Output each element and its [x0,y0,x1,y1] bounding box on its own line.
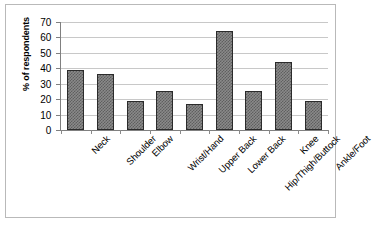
chart-frame: % of respondents 706050403020100 NeckSho… [5,4,336,218]
bar-lower-back [216,31,233,130]
y-tick-label-60: 60 [40,32,51,43]
bar-upper-back [186,104,203,130]
y-axis-ticks: 706050403020100 [6,22,61,130]
bar-shoulder [97,74,114,130]
x-axis-labels: NeckShoulderElbowWrist/HandUpper BackLow… [61,133,329,223]
bar-elbow [127,101,144,130]
bar-neck [67,70,84,130]
bar-hip-thigh-buttock [245,91,262,130]
y-tick-label-40: 40 [40,63,51,74]
plot-area [61,22,328,130]
bar-series [61,22,328,130]
bar-ankle-foot [305,101,322,130]
bar-knee [275,62,292,130]
y-tick-label-50: 50 [40,47,51,58]
y-tick-label-10: 10 [40,109,51,120]
y-tick-label-30: 30 [40,78,51,89]
x-label-neck: Neck [89,133,112,156]
y-tick-label-0: 0 [46,125,51,136]
y-tick-label-20: 20 [40,94,51,105]
bar-wrist-hand [156,91,173,130]
y-tick-label-70: 70 [40,17,51,28]
